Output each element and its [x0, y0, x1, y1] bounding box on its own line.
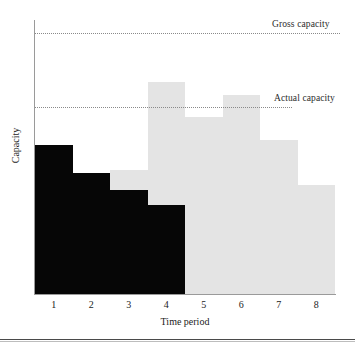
x-tick-4: 4	[148, 299, 186, 310]
bar-black-1	[35, 145, 73, 294]
bar-black-3	[110, 190, 148, 294]
x-axis-title: Time period	[35, 316, 335, 327]
x-tick-6: 6	[223, 299, 261, 310]
x-axis-line	[34, 294, 336, 295]
x-tick-8: 8	[298, 299, 336, 310]
bar-black-2	[73, 173, 111, 294]
bottom-divider	[0, 339, 355, 340]
actual-capacity-line	[35, 107, 292, 108]
x-tick-5: 5	[185, 299, 223, 310]
plot-area	[35, 20, 335, 294]
bottom-divider-shadow	[0, 341, 355, 342]
x-tick-2: 2	[73, 299, 111, 310]
y-axis-title: Capacity	[10, 111, 21, 181]
gross-capacity-line	[35, 33, 340, 34]
x-tick-7: 7	[260, 299, 298, 310]
bar-black-4	[148, 205, 186, 294]
capacity-chart-figure: Gross capacity Actual capacity 1 2 3 4 5…	[0, 0, 355, 348]
gross-capacity-label: Gross capacity	[272, 19, 330, 29]
series-gross-capacity	[35, 20, 335, 294]
actual-capacity-label: Actual capacity	[274, 93, 335, 103]
x-tick-1: 1	[35, 299, 73, 310]
x-tick-3: 3	[110, 299, 148, 310]
